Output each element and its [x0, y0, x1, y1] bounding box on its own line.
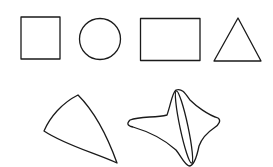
square-shape [21, 17, 60, 59]
shapes-figure [0, 0, 273, 167]
curved-triangle-shape [44, 95, 117, 163]
rectangle-shape [141, 19, 201, 61]
star-inner-ellipse [172, 90, 195, 164]
circle-shape [80, 19, 121, 60]
triangle-shape [214, 18, 261, 61]
row-irregular-shapes [44, 90, 220, 166]
star-outer-shape [128, 90, 220, 166]
row-simple-shapes [21, 17, 261, 61]
